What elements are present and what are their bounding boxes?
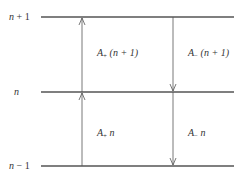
rate-subscript: − (194, 52, 198, 60)
rate-subscript: + (103, 52, 107, 60)
rate-subscript: − (194, 132, 198, 140)
rate-argument: n (201, 127, 206, 138)
arrow-down-icon (170, 17, 176, 91)
diagram-graphics (0, 0, 248, 178)
rate-argument: n (110, 127, 115, 138)
rate-subscript: + (103, 132, 107, 140)
rate-argument: (n + 1) (110, 47, 138, 58)
transition-label-a-minus-n-plus-1: A− (n + 1) (188, 48, 229, 60)
arrow-up-icon (79, 18, 85, 92)
level-label-n: n (14, 87, 19, 97)
arrow-down-icon (170, 92, 176, 165)
level-var: n (14, 86, 19, 97)
rate-argument: (n + 1) (201, 47, 229, 58)
arrow-up-icon (79, 93, 85, 166)
level-label-n-plus-1: n + 1 (9, 12, 30, 22)
level-suffix: + 1 (14, 11, 30, 22)
level-label-n-minus-1: n − 1 (9, 161, 30, 171)
transition-label-a-minus-n: A− n (188, 128, 206, 140)
level-transition-diagram: n + 1 n n − 1 A+ (n + 1) A− (n + 1) A+ n… (0, 0, 248, 178)
transition-label-a-plus-n-plus-1: A+ (n + 1) (97, 48, 138, 60)
level-suffix: − 1 (14, 160, 30, 171)
transition-label-a-plus-n: A+ n (97, 128, 115, 140)
